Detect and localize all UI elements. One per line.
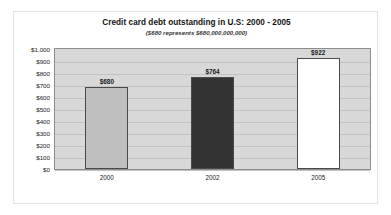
bar-2000[interactable] (85, 87, 128, 169)
x-tick-label: 2000 (77, 173, 137, 182)
gridline (55, 170, 370, 171)
x-axis: 200020022005 (54, 173, 371, 185)
bars-layer: $680$764$922 (54, 48, 371, 170)
y-tick-label: $100 (36, 154, 50, 161)
bar-value-label: $922 (288, 49, 348, 57)
bar-2005[interactable] (297, 58, 340, 169)
y-tick-label: $400 (36, 118, 50, 125)
y-tick-label: $500 (36, 106, 50, 113)
bar-2002[interactable] (191, 77, 234, 169)
bar-value-label: $764 (183, 68, 243, 76)
y-axis: $1,000$900$800$700$600$500$400$300$200$1… (14, 48, 52, 170)
y-tick-label: $700 (36, 82, 50, 89)
title-block: Credit card debt outstanding in U.S: 200… (14, 17, 379, 37)
y-tick-label: $600 (36, 94, 50, 101)
chart-subtitle: ($680 represents $680,000,000,000) (14, 28, 379, 37)
chart-title: Credit card debt outstanding in U.S: 200… (14, 17, 379, 28)
y-tick-label: $300 (36, 130, 50, 137)
x-tick-label: 2005 (288, 173, 348, 182)
y-tick-label: $800 (36, 70, 50, 77)
y-tick-label: $0 (43, 166, 50, 173)
y-tick-label: $1,000 (31, 46, 50, 53)
bar-value-label: $680 (77, 78, 137, 86)
x-tick-label: 2002 (183, 173, 243, 182)
chart-frame: Credit card debt outstanding in U.S: 200… (13, 11, 378, 204)
y-tick-label: $900 (36, 58, 50, 65)
y-tick-label: $200 (36, 142, 50, 149)
